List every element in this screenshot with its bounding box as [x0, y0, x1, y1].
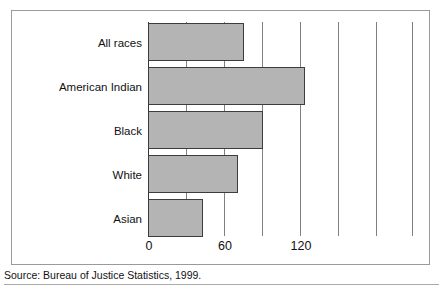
gridline-150 [338, 22, 339, 236]
bar-black[interactable] [148, 111, 263, 149]
category-label-black: Black [16, 124, 142, 138]
category-label-all-races: All races [16, 36, 142, 50]
chart-title-cropped [0, 0, 443, 1]
chart-frame: All races American Indian Black White As… [11, 10, 430, 265]
gridline-210 [412, 22, 413, 236]
bar-all-races[interactable] [148, 23, 244, 61]
bar-asian[interactable] [148, 199, 203, 237]
plot-area: All races American Indian Black White As… [12, 11, 431, 266]
category-label-white: White [16, 168, 142, 182]
bar-american-indian[interactable] [148, 67, 305, 105]
x-tick-label-60: 60 [205, 239, 245, 254]
bar-white[interactable] [148, 155, 238, 193]
x-tick-label-120: 120 [281, 239, 321, 254]
source-note: Source: Bureau of Justice Statistics, 19… [4, 269, 201, 281]
category-label-american-indian: American Indian [16, 80, 142, 94]
gridline-180 [376, 22, 377, 236]
gridline-120 [300, 22, 301, 236]
source-divider [4, 284, 439, 285]
category-label-asian: Asian [16, 212, 142, 226]
x-tick-label-0: 0 [129, 239, 169, 254]
